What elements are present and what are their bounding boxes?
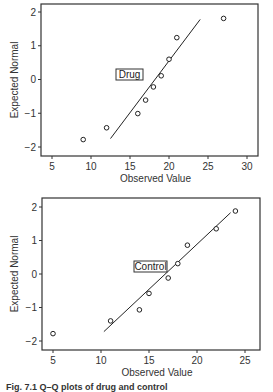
- qq-plot-control: −2−1012510152025Observed ValueExpected N…: [9, 198, 260, 378]
- data-point: [214, 226, 219, 231]
- data-point: [221, 16, 226, 21]
- data-point: [176, 261, 181, 266]
- y-tick-label: 0: [31, 269, 37, 280]
- data-point: [233, 209, 238, 214]
- y-tick-label: 1: [31, 235, 37, 246]
- y-tick-label: 1: [30, 40, 36, 51]
- y-tick-label: 0: [30, 74, 36, 85]
- data-point: [185, 243, 190, 248]
- data-point: [175, 35, 180, 40]
- y-axis-label: Expected Normal: [9, 236, 20, 313]
- x-axis-label: Observed Value: [120, 173, 191, 184]
- x-tick-label: 25: [239, 355, 251, 366]
- y-tick-label: −2: [25, 142, 37, 153]
- plot-frame: [42, 198, 260, 350]
- qq-plot-drug: −2−101251015202530Observed ValueExpected…: [9, 4, 258, 184]
- data-point: [136, 111, 141, 116]
- x-tick-label: 20: [191, 355, 203, 366]
- x-tick-label: 10: [85, 161, 97, 172]
- x-tick-label: 5: [50, 355, 56, 366]
- data-point: [104, 125, 109, 130]
- data-point: [143, 98, 148, 103]
- plot-frame: [41, 4, 258, 156]
- data-point: [108, 319, 113, 324]
- data-point: [166, 276, 171, 281]
- x-tick-label: 15: [143, 355, 155, 366]
- y-tick-label: −1: [25, 108, 37, 119]
- y-axis-label: Expected Normal: [9, 42, 20, 119]
- figure-caption: Fig. 7.1 Q–Q plots of drug and control: [6, 382, 168, 392]
- x-tick-label: 5: [49, 161, 55, 172]
- x-tick-label: 30: [241, 161, 253, 172]
- y-tick-label: −2: [26, 336, 38, 347]
- x-tick-label: 15: [124, 161, 136, 172]
- data-point: [151, 85, 156, 90]
- x-tick-label: 10: [95, 355, 107, 366]
- y-tick-label: 2: [30, 7, 36, 18]
- y-tick-label: −1: [26, 302, 38, 313]
- data-point: [167, 57, 172, 62]
- data-point: [51, 331, 56, 336]
- data-point: [159, 73, 164, 78]
- data-point: [81, 137, 86, 142]
- x-tick-label: 25: [202, 161, 214, 172]
- data-point: [147, 291, 152, 296]
- y-tick-label: 2: [31, 202, 37, 213]
- data-point: [137, 308, 142, 313]
- x-tick-label: 20: [163, 161, 175, 172]
- x-axis-label: Observed Value: [122, 367, 193, 378]
- series-label: Control: [134, 261, 166, 272]
- series-label: Drug: [119, 69, 141, 80]
